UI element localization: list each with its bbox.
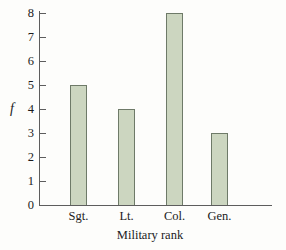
y-tick-label-4: 4 — [18, 103, 34, 116]
y-tick-6 — [40, 61, 46, 62]
y-tick-2 — [40, 157, 46, 158]
y-tick-4 — [40, 109, 46, 110]
y-tick-label-8: 8 — [18, 7, 34, 20]
bar-lt — [118, 109, 135, 205]
y-tick-label-3: 3 — [18, 127, 34, 140]
y-tick-label-6: 6 — [18, 55, 34, 68]
y-tick-1 — [40, 181, 46, 182]
y-tick-label-0: 0 — [18, 199, 34, 212]
y-tick-label-2: 2 — [18, 151, 34, 164]
x-axis-title-text: Military rank — [117, 228, 183, 242]
y-tick-5 — [40, 85, 46, 86]
y-axis-label: f — [10, 101, 14, 117]
bar-col — [166, 13, 183, 205]
x-axis-title: Military rank — [0, 228, 286, 242]
y-tick-label-7: 7 — [18, 31, 34, 44]
y-tick-8 — [40, 13, 46, 14]
bar-sgt — [70, 85, 87, 205]
x-tick-label-gen: Gen. — [190, 209, 250, 223]
y-tick-label-5: 5 — [18, 79, 34, 92]
y-tick-7 — [40, 37, 46, 38]
bar-gen — [211, 133, 228, 205]
chart-figure: f 8 7 6 5 4 3 2 1 0 Sgt. Lt. Col. Gen. M… — [0, 0, 286, 250]
y-tick-label-1: 1 — [18, 175, 34, 188]
y-tick-3 — [40, 133, 46, 134]
